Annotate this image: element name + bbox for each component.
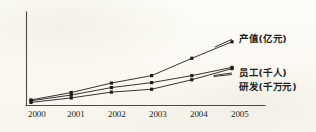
data-point-staff-2001 [70,93,73,96]
data-point-output-2002 [110,81,113,84]
series-label-rnd: 研发(千万元) [239,81,296,92]
x-tick-label-2004: 2004 [190,109,208,119]
series-line-staff [31,67,232,100]
x-tick-label-2002: 2002 [108,109,126,119]
x-tick-label-2000: 2000 [28,109,46,119]
x-tick-label-2001: 2001 [67,109,85,119]
data-point-rnd-2005 [230,67,233,70]
series-label-output: 产值(亿元) [239,33,286,44]
data-point-rnd-2001 [70,96,73,99]
chart-screenshot: 2000 2001 2002 2003 2004 2005 产值(亿元) 员工(… [0,0,316,132]
data-point-output-2005 [230,40,233,43]
series-label-staff: 员工(千人) [239,67,286,78]
series-line-output [31,42,232,100]
data-point-rnd-2000 [29,101,32,104]
line-chart: 2000 2001 2002 2003 2004 2005 产值(亿元) 员工(… [0,0,316,132]
data-point-staff-2002 [110,86,113,89]
series-layer [29,40,233,104]
data-point-staff-2003 [150,81,153,84]
data-point-staff-2004 [190,74,193,77]
data-point-rnd-2002 [110,91,113,94]
x-tick-label-2005: 2005 [231,109,249,119]
data-point-rnd-2003 [150,88,153,91]
data-point-output-2004 [190,57,193,60]
data-point-rnd-2004 [190,78,193,81]
x-tick-label-2003: 2003 [149,109,167,119]
data-point-output-2003 [150,74,153,77]
